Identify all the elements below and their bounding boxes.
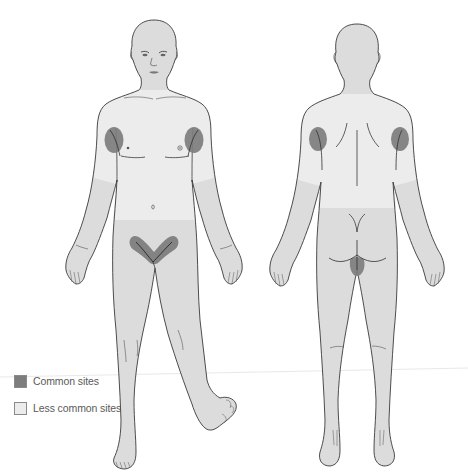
legend-label-less-common-sites: Less common sites [33, 402, 121, 414]
front-right-axilla-common-site [105, 127, 124, 153]
legend: Common sites Less common sites [14, 373, 121, 427]
back-view [270, 24, 444, 466]
front-less-common-torso [94, 90, 214, 222]
common-sites-swatch [14, 375, 27, 388]
legend-item-common-sites: Common sites [14, 373, 121, 389]
less-common-sites-swatch [14, 402, 27, 415]
front-right-nipple [127, 147, 130, 150]
back-right-axilla-common-site [309, 127, 327, 151]
front-left-nipple-center [179, 147, 181, 149]
front-left-axilla-common-site [185, 127, 204, 153]
legend-label-common-sites: Common sites [33, 375, 99, 387]
back-left-axilla-common-site [391, 127, 409, 151]
legend-item-less-common-sites: Less common sites [14, 400, 121, 416]
